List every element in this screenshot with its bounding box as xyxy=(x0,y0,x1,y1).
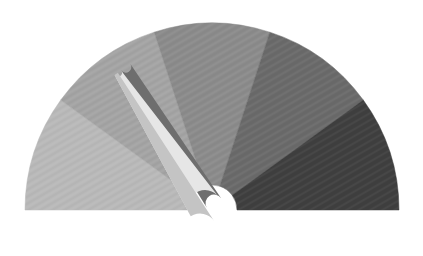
gauge-segments xyxy=(25,23,399,210)
gauge-chart xyxy=(0,0,423,256)
